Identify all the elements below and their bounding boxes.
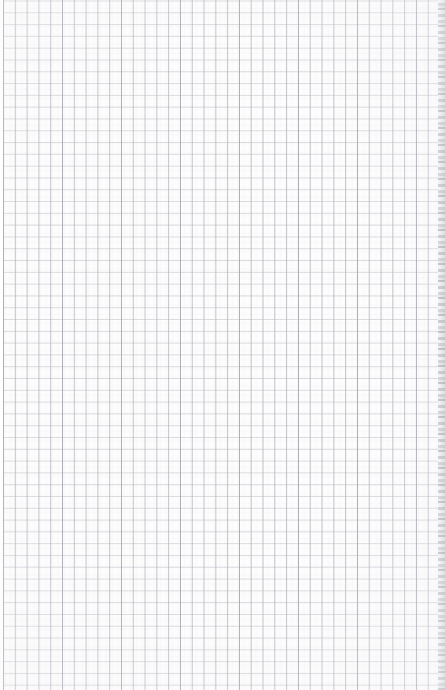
graph-paper-page (0, 0, 445, 690)
paper-background (0, 0, 445, 690)
